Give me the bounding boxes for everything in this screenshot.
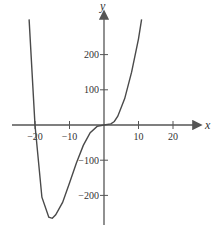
y-tick-label: −100 <box>78 155 99 166</box>
x-ticks: −20−101020 <box>27 121 178 142</box>
plot-area: x y −20−101020 −200−100100200 <box>0 0 217 225</box>
x-axis-label: x <box>204 118 211 132</box>
x-tick-label: −20 <box>27 131 43 142</box>
y-tick-label: 200 <box>84 49 99 60</box>
y-axis-label: y <box>99 0 106 13</box>
y-tick-label: 100 <box>84 84 99 95</box>
x-tick-label: −10 <box>62 131 78 142</box>
x-tick-label: 20 <box>168 131 178 142</box>
chart: x y −20−101020 −200−100100200 <box>0 0 217 225</box>
x-tick-label: 10 <box>134 131 144 142</box>
y-tick-label: −200 <box>78 190 99 201</box>
